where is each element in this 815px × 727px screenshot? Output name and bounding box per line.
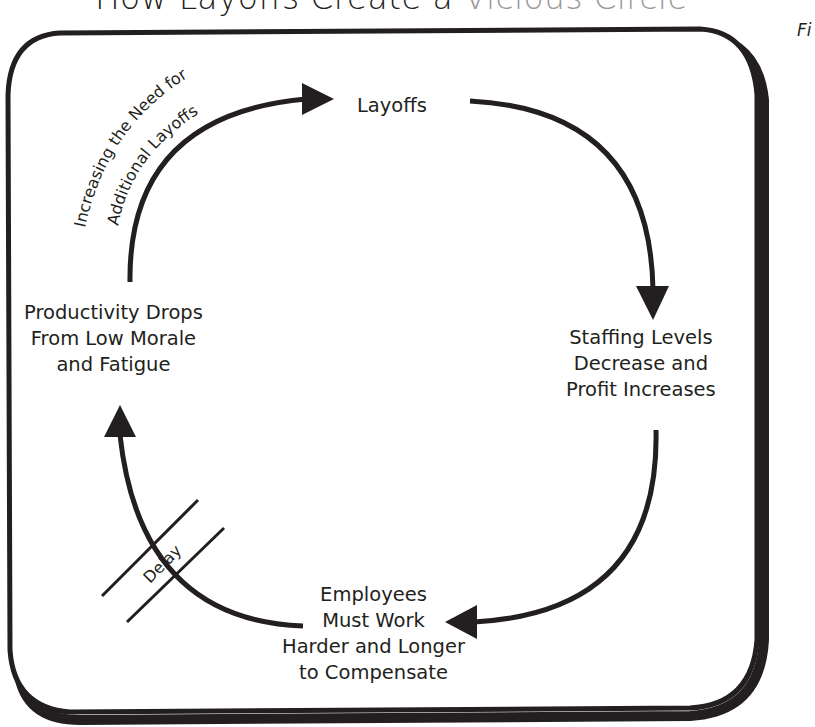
node-staffing-line: Decrease and xyxy=(566,351,716,377)
node-employees-work-harder: Employees Must Work Harder and Longer to… xyxy=(282,582,465,686)
node-productivity-drops: Productivity Drops From Low Morale and F… xyxy=(24,300,203,378)
node-staffing-line: Staffing Levels xyxy=(566,325,716,351)
node-employees-line: Must Work xyxy=(282,608,465,634)
node-employees-line: Harder and Longer xyxy=(282,634,465,660)
node-layoffs: Layoffs xyxy=(357,93,427,119)
node-employees-line: Employees xyxy=(282,582,465,608)
node-staffing-line: Profit Increases xyxy=(566,377,716,403)
node-productivity-line: and Fatigue xyxy=(24,352,203,378)
node-layoffs-line: Layoffs xyxy=(357,93,427,119)
node-staffing-levels: Staffing Levels Decrease and Profit Incr… xyxy=(566,325,716,403)
node-productivity-line: Productivity Drops xyxy=(24,300,203,326)
node-productivity-line: From Low Morale xyxy=(24,326,203,352)
node-employees-line: to Compensate xyxy=(282,660,465,686)
